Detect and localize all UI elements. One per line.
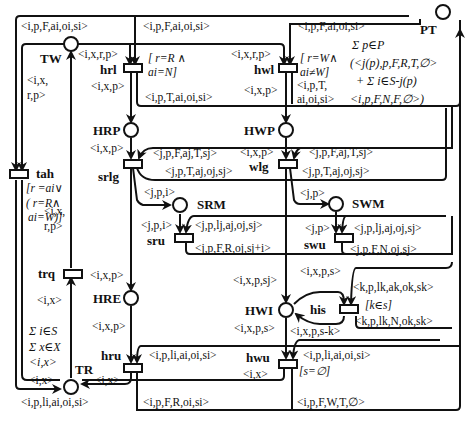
marking-pt: Σ p∈P bbox=[351, 38, 385, 52]
guard-tah: ai=W)] bbox=[28, 211, 63, 224]
arc-label: <i,p,F,R,oi,si> bbox=[143, 396, 209, 409]
arc-label: <j,p,T,aj,oj,sj> bbox=[165, 165, 232, 178]
label-trq: trq bbox=[38, 266, 56, 281]
label-hrl: hrl bbox=[100, 62, 117, 77]
arc-label: <k,p,lk,N,ok,sk> bbox=[355, 315, 433, 328]
label-tah: tah bbox=[36, 166, 55, 181]
arc-label: <i,x,p> bbox=[244, 84, 277, 97]
arc-label: <i,p,T, bbox=[297, 79, 327, 92]
transition-his[interactable] bbox=[340, 305, 358, 313]
arc-label: <j,p,i> bbox=[141, 219, 172, 232]
label-hre: HRE bbox=[93, 291, 121, 306]
transition-sru[interactable] bbox=[175, 234, 193, 242]
petri-net-diagram: TW PT HRP HWP SRM SWM HRE HWI TR hrl hwl… bbox=[0, 0, 466, 422]
arc-label: <i,x,p> bbox=[90, 142, 123, 155]
arc-swu-to-pt bbox=[342, 242, 346, 254]
marking-pt: + Σ i∈S-j(p) bbox=[356, 74, 417, 88]
place-srm[interactable] bbox=[173, 198, 187, 212]
arc-label: <i,p,li,ai,oi,si> bbox=[21, 396, 89, 409]
place-hwi[interactable] bbox=[279, 303, 293, 317]
transition-hwu[interactable] bbox=[279, 360, 297, 368]
marking-tr: Σ x∈X bbox=[28, 340, 61, 354]
arc-label: <i,x,p> bbox=[90, 269, 123, 282]
guard-hrl: [ r=R ∧ bbox=[148, 52, 186, 64]
arc-label: <i,x,p> bbox=[91, 80, 124, 93]
arc-label: <i,p,F,W,T,∅> bbox=[297, 396, 365, 409]
label-hwl: hwl bbox=[254, 62, 275, 77]
arc-label: <j,p,F,N,oj,sj> bbox=[350, 243, 417, 256]
arc-label: <i,x> bbox=[95, 374, 120, 387]
arc-label: <i,x> bbox=[243, 368, 268, 381]
label-srlg: srlg bbox=[98, 169, 119, 184]
marking-tr: Σ i∈S bbox=[28, 324, 57, 338]
arc-label: <i,x,p,s> bbox=[300, 265, 341, 278]
arc-label: <j,p,i> bbox=[144, 186, 175, 199]
arc-label: <k,p,lk,ak,ok,sk> bbox=[353, 281, 433, 294]
arc-label: <j,p,T,aj,oj,sj> bbox=[302, 165, 369, 178]
arc-label: <j,p,F,aj,T,sj> bbox=[153, 147, 217, 160]
arc-label: <j,p,F,R,oj,sj+i> bbox=[195, 242, 271, 255]
marking-pt: (<j(p),p,F,R,T,∅> bbox=[350, 56, 437, 70]
label-wlg: wlg bbox=[249, 159, 269, 174]
place-hrp[interactable] bbox=[124, 123, 138, 137]
marking-pt: <i,p,F,N,F,∅>) bbox=[350, 92, 424, 106]
label-hwu: hwu bbox=[246, 350, 270, 365]
label-tr: TR bbox=[75, 362, 94, 377]
arc-label: <i,x,p> bbox=[92, 320, 125, 333]
guard-his: [k∈s] bbox=[365, 299, 392, 311]
arc-label: <i,x,p,sj> bbox=[233, 274, 277, 287]
label-hrp: HRP bbox=[93, 123, 121, 138]
transition-swu[interactable] bbox=[335, 234, 353, 242]
guard-tah: ( r=R∧ bbox=[26, 197, 60, 210]
arc-label: <i,x,p,s-k> bbox=[290, 325, 340, 338]
transition-srlg[interactable] bbox=[124, 160, 142, 168]
place-tr[interactable] bbox=[64, 380, 78, 394]
arc-label: <j,p,F,aj,T,sj> bbox=[309, 146, 373, 159]
arc-label: <i,x,r,p> bbox=[78, 48, 118, 61]
arc-label: <i,p,T,ai,oi,si> bbox=[145, 91, 212, 104]
arc-label: r,p> bbox=[27, 89, 45, 102]
label-swm: SWM bbox=[352, 196, 385, 211]
transition-wlg[interactable] bbox=[279, 160, 297, 168]
arc-label: ai,oi,si> bbox=[297, 93, 334, 106]
arc-label: <j,p,lj,aj,oj,sj> bbox=[354, 222, 422, 235]
label-pt: PT bbox=[420, 22, 437, 37]
arc-label: <j,p> bbox=[300, 187, 325, 200]
arc-label: <i,p,F,ai,oi,si> bbox=[298, 20, 365, 33]
label-his: his bbox=[310, 302, 326, 317]
transition-hrl[interactable] bbox=[124, 64, 142, 72]
place-hre[interactable] bbox=[124, 291, 138, 305]
arc-label: <i,x,r,p> bbox=[231, 48, 271, 61]
guard-hwl: ai≠W] bbox=[300, 66, 329, 78]
label-sru: sru bbox=[147, 233, 165, 248]
arc-label: <i,p,F,ai,oi,si> bbox=[143, 20, 210, 33]
arc-label: <i,x> bbox=[37, 294, 62, 307]
marking-tr: <i,x> bbox=[29, 355, 57, 369]
label-hwp: HWP bbox=[244, 123, 275, 138]
arc-label: <i,x,p> bbox=[240, 146, 273, 159]
guard-hwu: [s=∅] bbox=[299, 365, 330, 377]
place-pt[interactable] bbox=[436, 5, 450, 19]
arc-label: <j,p> bbox=[305, 222, 330, 235]
label-swu: swu bbox=[304, 237, 326, 252]
label-hru: hru bbox=[101, 348, 121, 363]
guard-hrl: ai=N] bbox=[148, 66, 177, 78]
place-hwp[interactable] bbox=[279, 123, 293, 137]
arc-label: <i,p,li,ai,oi,si> bbox=[149, 349, 217, 362]
transition-hwl[interactable] bbox=[279, 64, 297, 72]
arc-label: <j,p,lj,aj,oj,sj> bbox=[195, 219, 263, 232]
arc-label: <i,p,F,ai,oi,si> bbox=[21, 20, 88, 33]
arc-label: <i,x,p,s> bbox=[234, 322, 275, 335]
arc-pt-to-wlg bbox=[294, 148, 300, 158]
guard-hwl: [ r=W∧ bbox=[300, 52, 338, 64]
guard-tah: [r =ai∨ bbox=[26, 182, 63, 194]
transition-tah[interactable] bbox=[10, 170, 28, 178]
label-hwi: HWI bbox=[245, 303, 273, 318]
transition-trq[interactable] bbox=[64, 270, 82, 278]
arc-label: <i,p,li,ai,oi,si> bbox=[303, 349, 371, 362]
place-tw[interactable] bbox=[64, 37, 78, 51]
transition-hru[interactable] bbox=[124, 364, 142, 372]
arc-label: <i,x> bbox=[29, 374, 54, 387]
label-tw: TW bbox=[40, 51, 62, 66]
place-swm[interactable] bbox=[329, 197, 343, 211]
